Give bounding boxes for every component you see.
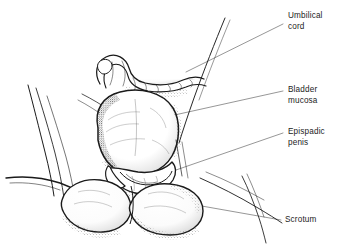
leader-line-epispadic-penis (176, 133, 283, 170)
label-scrotum: Scrotum (285, 215, 317, 226)
label-epispadic-penis: Epispadic penis (288, 127, 325, 148)
anatomical-illustration (0, 0, 351, 249)
leader-line-scrotum (196, 205, 281, 220)
leader-line-umbilical-cord (186, 24, 283, 72)
label-bladder-mucosa: Bladder mucosa (288, 85, 318, 106)
label-umbilical-cord: Umbilical cord (288, 11, 323, 32)
figure-root: Umbilical cord Bladder mucosa Epispadic … (0, 0, 351, 249)
